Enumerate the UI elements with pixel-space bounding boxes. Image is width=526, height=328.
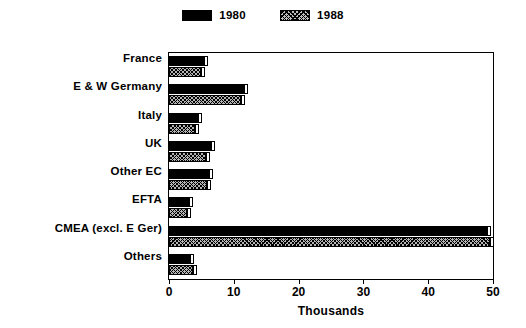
bar-shadow [206,152,210,162]
x-axis-tick [493,279,494,284]
category-label-e-w-germany: E & W Germany [2,81,162,93]
chart-legend: 1980 1988 [0,10,526,22]
category-label-others: Others [2,251,162,263]
category-label-italy: Italy [2,110,162,122]
legend-label-1988: 1988 [317,10,344,22]
x-axis-tick [428,279,429,284]
bar-italy-1980 [169,113,198,123]
bar-others-1988 [169,265,193,275]
category-label-france: France [2,53,162,65]
bar-shadow [204,56,208,66]
bar-shadow [241,95,245,105]
bar-italy-1988 [169,124,195,134]
bar-others-1980 [169,254,190,264]
bar-group-others: Others [169,251,493,279]
bar-uk-1980 [169,141,211,151]
bar-other-ec-1988 [169,180,207,190]
bar-shadow [189,197,193,207]
x-axis-tick-label: 10 [227,286,240,298]
legend-swatch-hatch-icon [280,10,310,21]
bar-shadow [244,84,248,94]
category-label-cmea: CMEA (excl. E Ger) [2,223,162,235]
legend-label-1980: 1980 [219,10,246,22]
bar-shadow [207,180,211,190]
bar-uk-1988 [169,152,206,162]
bar-shadow [193,265,197,275]
bar-group-e-w-germany: E & W Germany [169,81,493,109]
bar-shadow [490,237,494,247]
bar-group-other-ec: Other EC [169,166,493,194]
x-axis-tick-label: 20 [292,286,305,298]
x-axis-tick [169,279,170,284]
bar-shadow [195,124,199,134]
bar-e-w-germany-1988 [169,95,241,105]
bar-shadow [487,226,491,236]
legend-swatch-solid-icon [182,10,212,21]
x-axis-tick [363,279,364,284]
x-axis-title: Thousands [169,305,493,317]
bar-other-ec-1980 [169,169,209,179]
bar-group-efta: EFTA [169,194,493,222]
x-axis-tick-label: 0 [166,286,173,298]
bar-group-cmea: CMEA (excl. E Ger) [169,223,493,251]
x-axis-tick [299,279,300,284]
category-label-uk: UK [2,138,162,150]
bar-shadow [190,254,194,264]
bar-shadow [187,208,191,218]
bar-cmea-1988 [169,237,490,247]
bar-shadow [201,67,205,77]
x-axis-tick-label: 50 [486,286,499,298]
bar-cmea-1980 [169,226,487,236]
bar-shadow [211,141,215,151]
bar-e-w-germany-1980 [169,84,244,94]
legend-entry-1980: 1980 [182,10,246,22]
bar-efta-1980 [169,197,189,207]
bar-france-1980 [169,56,204,66]
x-axis-tick-label: 40 [422,286,435,298]
category-label-other-ec: Other EC [2,166,162,178]
bar-group-france: France [169,53,493,81]
bar-group-italy: Italy [169,110,493,138]
bar-efta-1988 [169,208,187,218]
legend-entry-1988: 1988 [280,10,344,22]
bar-france-1988 [169,67,201,77]
bar-group-uk: UK [169,138,493,166]
category-label-efta: EFTA [2,194,162,206]
bar-shadow [198,113,202,123]
x-axis-tick [234,279,235,284]
x-axis-tick-label: 30 [357,286,370,298]
chart-plot-area: France E & W Germany Italy UK [168,52,494,280]
bar-shadow [209,169,213,179]
